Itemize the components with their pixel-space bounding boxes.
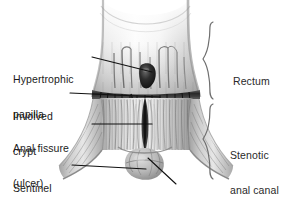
label-stenotic-anal-canal: Stenotic anal canal (230, 127, 279, 212)
label-stenotic-anal-canal-line1: Stenotic (230, 150, 279, 162)
anal-fissure-figure: Hypertrophic papilla Involved crypt Anal… (0, 0, 289, 212)
label-hypertrophic-papilla-line1: Hypertrophic (13, 74, 74, 86)
label-anal-verge: Anal verge (178, 188, 229, 212)
label-rectum-line1: Rectum (233, 76, 270, 88)
label-anal-fissure-line1: Anal fissure (13, 143, 69, 155)
label-stenotic-anal-canal-line2: anal canal (230, 185, 279, 197)
label-anal-verge-line1: Anal verge (178, 211, 229, 212)
sentinel-pile-tag (118, 147, 172, 180)
label-sentinel-pile: Sentinel pile (13, 160, 52, 212)
rectum-brace (203, 22, 213, 99)
label-rectum: Rectum (233, 53, 270, 111)
label-sentinel-pile-line1: Sentinel (13, 183, 52, 195)
